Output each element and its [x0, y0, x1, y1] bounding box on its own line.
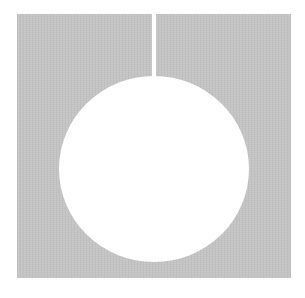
vertical-slit [152, 14, 156, 80]
diagram-canvas [0, 0, 305, 298]
white-circle-hole [59, 76, 249, 262]
